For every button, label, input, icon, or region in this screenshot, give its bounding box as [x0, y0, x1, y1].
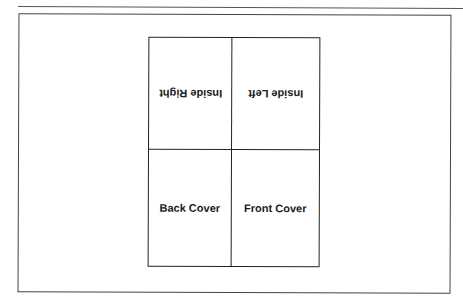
panel-back-cover: Back Cover [149, 150, 232, 266]
panel-label: Back Cover [160, 202, 221, 214]
panel-inside-left: Inside Left [232, 38, 319, 150]
panel-front-cover: Front Cover [232, 150, 319, 266]
panel-inside-right: Inside Right [149, 38, 232, 150]
panel-label: Front Cover [244, 202, 306, 214]
panel-label: Inside Right [159, 87, 222, 99]
top-rule [18, 6, 463, 9]
card-layout-grid: Inside Right Inside Left Back Cover Fron… [148, 37, 321, 268]
panel-label: Inside Left [248, 88, 303, 100]
